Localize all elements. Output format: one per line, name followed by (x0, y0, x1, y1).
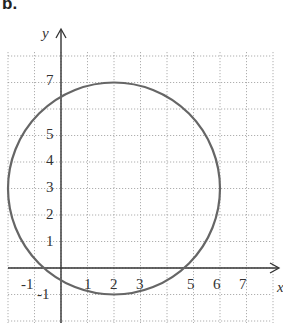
x-tick: 7 (239, 277, 247, 292)
coordinate-plane (0, 0, 283, 323)
y-axis-label: y (42, 26, 49, 41)
x-tick: 1 (84, 277, 92, 292)
x-tick: 3 (136, 277, 144, 292)
y-tick: 5 (46, 127, 54, 142)
x-tick: 6 (213, 277, 221, 292)
y-tick: -1 (37, 287, 50, 302)
x-tick: 2 (110, 277, 118, 292)
y-tick: 3 (46, 180, 54, 195)
y-tick: 4 (46, 153, 54, 168)
y-tick: 7 (46, 73, 54, 88)
y-tick: 1 (46, 234, 54, 249)
y-tick: 2 (46, 207, 54, 222)
x-tick: -1 (21, 277, 34, 292)
x-tick: 5 (187, 277, 195, 292)
x-axis-label: x (277, 280, 283, 295)
